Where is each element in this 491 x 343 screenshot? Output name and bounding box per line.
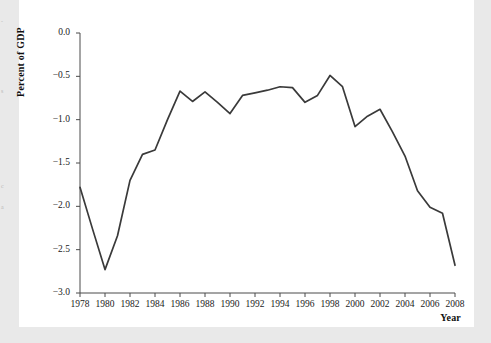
plot-canvas <box>19 0 474 327</box>
line-chart: 0.0−0.5−1.0−1.5−2.0−2.5−3.0 197819801982… <box>19 0 474 327</box>
margin-text-fragment: c <box>1 183 3 189</box>
y-tick-label: −1.0 <box>42 114 70 124</box>
y-tick-label: −2.5 <box>42 244 70 254</box>
x-axis-title: Year <box>440 312 461 323</box>
y-tick-label: 0.0 <box>42 27 70 37</box>
y-tick-label: −1.5 <box>42 157 70 167</box>
figure-screenshot: -sca 0.0−0.5−1.0−1.5−2.0−2.5−3.0 1978198… <box>0 0 491 343</box>
y-tick-marks <box>76 33 80 293</box>
x-tick-marks <box>80 293 455 297</box>
axis-lines <box>80 33 455 293</box>
data-series-line <box>80 75 455 269</box>
margin-text-fragment: - <box>1 18 3 24</box>
y-tick-label: −3.0 <box>42 287 70 297</box>
y-tick-label: −2.0 <box>42 200 70 210</box>
margin-text-fragment: s <box>1 88 3 94</box>
x-tick-label: 2008 <box>440 299 470 309</box>
y-axis-title: Percent of GDP <box>15 14 26 110</box>
margin-text-fragment: a <box>1 204 3 210</box>
y-tick-label: −0.5 <box>42 70 70 80</box>
